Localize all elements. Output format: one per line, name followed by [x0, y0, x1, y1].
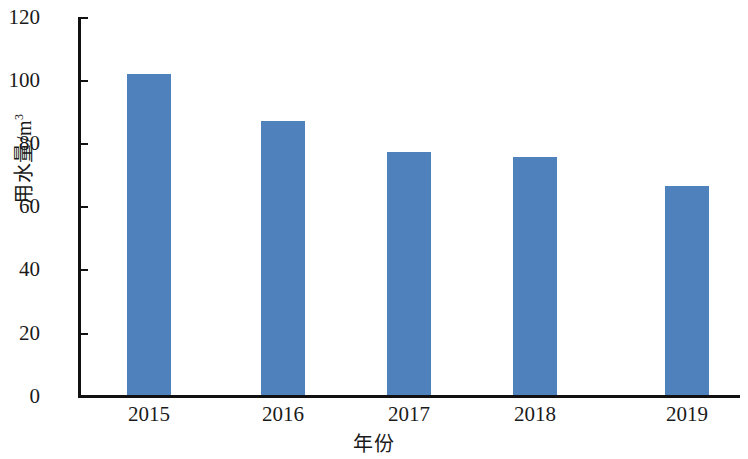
bar-2016 [261, 121, 305, 395]
bar-2018 [513, 157, 557, 395]
bar-2019 [665, 186, 709, 395]
y-tick-label-40: 40 [0, 259, 40, 280]
y-tick-label-120: 120 [0, 7, 40, 28]
x-axis-line [78, 395, 740, 398]
y-tick-label-0: 0 [0, 386, 40, 407]
y-tick-label-20: 20 [0, 323, 40, 344]
plot-area [81, 17, 740, 395]
y-tick-label-60: 60 [0, 196, 40, 217]
bar-chart-figure: 用水量/m3 0 20 40 60 80 100 120 2015 2016 2… [0, 0, 748, 459]
x-tick-label-2015: 2015 [89, 402, 209, 426]
x-axis-title: 年份 [0, 428, 748, 457]
y-tick-label-80: 80 [0, 133, 40, 154]
x-tick-label-2016: 2016 [223, 402, 343, 426]
bar-2015 [127, 74, 171, 395]
x-tick-label-2019: 2019 [627, 402, 747, 426]
y-tick-label-100: 100 [0, 70, 40, 91]
x-tick-label-2018: 2018 [475, 402, 595, 426]
x-tick-label-2017: 2017 [349, 402, 469, 426]
bar-2017 [387, 152, 431, 395]
y-axis-title-superscript: 3 [12, 113, 26, 120]
